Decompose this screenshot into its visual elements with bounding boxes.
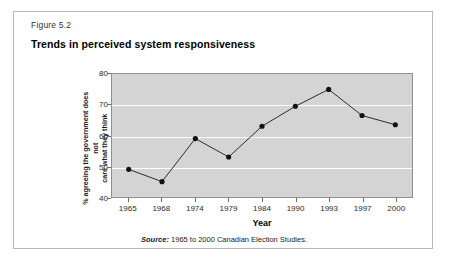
data-point-marker <box>226 154 231 159</box>
line-chart: % agreeing the government does not care … <box>14 12 434 250</box>
data-point-marker <box>359 113 364 118</box>
data-point-marker <box>159 179 164 184</box>
data-point-marker <box>126 167 131 172</box>
x-axis-tick-labels: 196519681974197919841990199319972000 <box>111 204 413 218</box>
x-axis-tick-marks <box>111 198 413 203</box>
series-line-group <box>112 74 412 197</box>
x-axis-tick-mark <box>195 198 196 202</box>
source-text: 1965 to 2000 Canadian Election Studies. <box>169 235 307 244</box>
x-axis-tick-mark <box>128 198 129 202</box>
data-point-marker <box>293 104 298 109</box>
data-point-marker <box>193 136 198 141</box>
y-axis-tick-label: 60 <box>86 131 108 140</box>
y-axis-tick-label: 70 <box>86 100 108 109</box>
data-point-marker <box>393 122 398 127</box>
data-point-marker <box>259 124 264 129</box>
y-axis-tick-label: 50 <box>86 162 108 171</box>
plot-area <box>111 73 413 198</box>
series-line <box>129 89 396 181</box>
x-axis-tick-mark <box>363 198 364 202</box>
source-note: Source: 1965 to 2000 Canadian Election S… <box>14 235 434 244</box>
y-axis-tick-labels: 8070605040 <box>84 73 108 198</box>
x-axis-title: Year <box>111 218 413 228</box>
x-axis-tick-mark <box>161 198 162 202</box>
x-axis-tick-mark <box>396 198 397 202</box>
x-axis-tick-mark <box>262 198 263 202</box>
figure-card: Figure 5.2 Trends in perceived system re… <box>13 11 433 249</box>
x-axis-tick-mark <box>228 198 229 202</box>
source-label: Source: <box>141 235 169 244</box>
x-axis-tick-mark <box>296 198 297 202</box>
x-axis-tick-mark <box>329 198 330 202</box>
y-axis-tick-label: 40 <box>86 194 108 203</box>
x-axis-tick-label: 2000 <box>376 204 416 213</box>
data-point-marker <box>326 87 331 92</box>
y-axis-tick-label: 80 <box>86 69 108 78</box>
